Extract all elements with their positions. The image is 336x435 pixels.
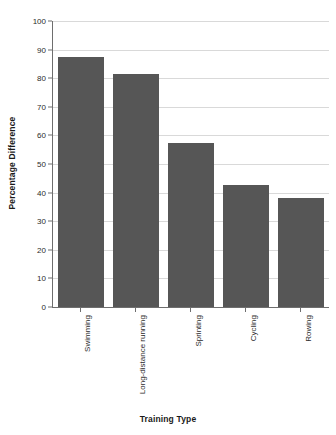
- x-axis-tick-labels: SwimmingLong-distance runningSprintingCy…: [52, 308, 329, 408]
- bar[interactable]: [58, 57, 104, 307]
- y-axis-tick-labels: 0102030405060708090100: [22, 0, 52, 435]
- y-axis-tick-label: 40: [37, 188, 46, 197]
- y-axis-title-text: Percentage Difference: [7, 117, 17, 210]
- x-axis-tick-mark: [80, 308, 81, 312]
- x-axis-tick-mark: [190, 308, 191, 312]
- y-axis-tick-label: 10: [37, 274, 46, 283]
- y-axis-tick-label: 30: [37, 217, 46, 226]
- bar[interactable]: [278, 198, 324, 307]
- x-axis-title: Training Type: [0, 414, 336, 424]
- x-axis-tick-label: Long-distance running: [138, 315, 147, 394]
- x-axis-tick-mark: [300, 308, 301, 312]
- y-axis-title: Percentage Difference: [2, 0, 22, 326]
- bar-series: [53, 21, 329, 307]
- y-axis-tick-label: 60: [37, 131, 46, 140]
- x-axis-tick-label: Rowing: [304, 315, 313, 342]
- x-axis-tick-mark: [245, 308, 246, 312]
- bar[interactable]: [168, 143, 214, 307]
- y-axis-tick-label: 70: [37, 102, 46, 111]
- y-axis-tick-label: 20: [37, 245, 46, 254]
- y-axis-tick-label: 50: [37, 160, 46, 169]
- y-axis-tick-label: 0: [42, 303, 46, 312]
- bar[interactable]: [223, 185, 269, 307]
- x-axis-tick-label: Swimming: [83, 315, 92, 352]
- x-axis-tick-label: Cycling: [249, 315, 258, 341]
- bar[interactable]: [113, 74, 159, 307]
- x-axis-tick-label: Sprinting: [194, 315, 203, 347]
- y-axis-tick-label: 80: [37, 74, 46, 83]
- y-axis-tick-label: 100: [33, 17, 46, 26]
- x-axis-tick-mark: [135, 308, 136, 312]
- y-axis-tick-label: 90: [37, 45, 46, 54]
- bar-chart-figure: Percentage Difference 010203040506070809…: [0, 0, 336, 435]
- plot-area: [52, 21, 329, 307]
